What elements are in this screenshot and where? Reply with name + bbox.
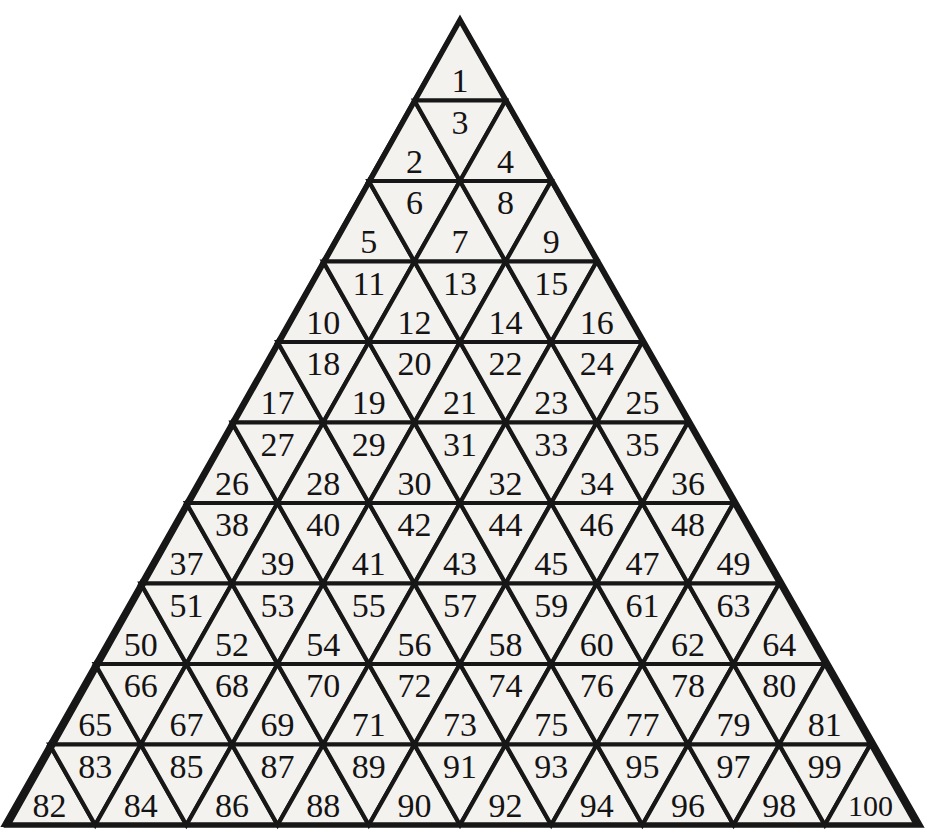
triangle-cell-label-32: 32 bbox=[489, 465, 523, 502]
triangle-cell-label-58: 58 bbox=[489, 626, 523, 663]
triangle-cell-label-88: 88 bbox=[306, 787, 340, 824]
triangle-cell-label-52: 52 bbox=[215, 626, 249, 663]
triangle-cell-label-54: 54 bbox=[306, 626, 340, 663]
triangle-cell-label-63: 63 bbox=[717, 587, 751, 624]
triangle-cell-label-61: 61 bbox=[625, 587, 659, 624]
triangle-cell-label-90: 90 bbox=[397, 787, 431, 824]
triangle-cell-label-69: 69 bbox=[261, 706, 295, 743]
triangle-cell-label-67: 67 bbox=[169, 706, 203, 743]
triangle-cell-label-55: 55 bbox=[352, 587, 386, 624]
triangle-cell-label-5: 5 bbox=[360, 223, 377, 260]
triangle-cell-label-86: 86 bbox=[215, 787, 249, 824]
triangle-cell-label-97: 97 bbox=[717, 748, 751, 785]
triangle-cell-label-78: 78 bbox=[671, 667, 705, 704]
triangle-cell-label-44: 44 bbox=[489, 506, 523, 543]
triangle-cell-label-34: 34 bbox=[580, 465, 614, 502]
triangle-cell-label-66: 66 bbox=[124, 667, 158, 704]
triangle-cell-label-22: 22 bbox=[489, 345, 523, 382]
triangle-cell-label-14: 14 bbox=[489, 304, 523, 341]
triangle-cell-label-20: 20 bbox=[397, 345, 431, 382]
triangle-cell-label-15: 15 bbox=[534, 265, 568, 302]
triangle-cell-label-13: 13 bbox=[443, 265, 477, 302]
triangle-cell-label-65: 65 bbox=[78, 706, 112, 743]
triangle-cell-label-47: 47 bbox=[625, 545, 659, 582]
triangle-cell-label-49: 49 bbox=[717, 545, 751, 582]
triangle-cell-label-39: 39 bbox=[261, 545, 295, 582]
triangle-cell-label-46: 46 bbox=[580, 506, 614, 543]
triangle-cell-label-64: 64 bbox=[762, 626, 796, 663]
triangle-cell-label-74: 74 bbox=[489, 667, 523, 704]
triangle-grid-svg: 1234567891011121314151617181920212223242… bbox=[0, 0, 944, 840]
triangle-cell-label-82: 82 bbox=[33, 787, 67, 824]
triangle-cell-label-30: 30 bbox=[397, 465, 431, 502]
triangle-cell-label-41: 41 bbox=[352, 545, 386, 582]
triangle-cell-label-26: 26 bbox=[215, 465, 249, 502]
triangle-cell-label-48: 48 bbox=[671, 506, 705, 543]
triangle-cell-label-85: 85 bbox=[169, 748, 203, 785]
triangle-cell-label-93: 93 bbox=[534, 748, 568, 785]
triangle-cell-label-10: 10 bbox=[306, 304, 340, 341]
triangle-cell-label-71: 71 bbox=[352, 706, 386, 743]
triangle-cell-label-70: 70 bbox=[306, 667, 340, 704]
triangle-cell-label-35: 35 bbox=[625, 426, 659, 463]
triangle-cell-label-7: 7 bbox=[452, 223, 469, 260]
triangle-cell-label-77: 77 bbox=[625, 706, 659, 743]
triangle-cell-label-24: 24 bbox=[580, 345, 614, 382]
triangle-cell-label-73: 73 bbox=[443, 706, 477, 743]
triangle-cell-label-16: 16 bbox=[580, 304, 614, 341]
triangle-cell-label-84: 84 bbox=[124, 787, 158, 824]
triangle-cell-label-75: 75 bbox=[534, 706, 568, 743]
triangle-cell-label-42: 42 bbox=[397, 506, 431, 543]
triangle-cell-label-56: 56 bbox=[397, 626, 431, 663]
triangle-cell-label-28: 28 bbox=[306, 465, 340, 502]
triangle-cell-label-92: 92 bbox=[489, 787, 523, 824]
triangle-cell-label-80: 80 bbox=[762, 667, 796, 704]
triangle-cell-label-11: 11 bbox=[352, 265, 385, 302]
triangle-cell-label-98: 98 bbox=[762, 787, 796, 824]
triangle-cell-label-50: 50 bbox=[124, 626, 158, 663]
triangle-cell-label-6: 6 bbox=[406, 184, 423, 221]
triangle-cell-label-37: 37 bbox=[169, 545, 203, 582]
triangle-cell-label-87: 87 bbox=[261, 748, 295, 785]
triangle-cell-label-27: 27 bbox=[261, 426, 295, 463]
triangle-cell-label-12: 12 bbox=[397, 304, 431, 341]
triangle-cell-label-36: 36 bbox=[671, 465, 705, 502]
triangle-cell-label-19: 19 bbox=[352, 384, 386, 421]
triangle-cell-label-79: 79 bbox=[717, 706, 751, 743]
triangle-cell-label-100: 100 bbox=[848, 789, 893, 822]
triangle-cell-label-9: 9 bbox=[543, 223, 560, 260]
triangle-cell-label-17: 17 bbox=[261, 384, 295, 421]
triangle-cell-label-4: 4 bbox=[497, 143, 514, 180]
triangle-cell-label-33: 33 bbox=[534, 426, 568, 463]
triangle-cell-label-3: 3 bbox=[452, 104, 469, 141]
triangle-cell-label-72: 72 bbox=[397, 667, 431, 704]
triangle-cell-label-95: 95 bbox=[625, 748, 659, 785]
triangle-cell-label-29: 29 bbox=[352, 426, 386, 463]
triangle-cell-label-62: 62 bbox=[671, 626, 705, 663]
triangle-cell-label-89: 89 bbox=[352, 748, 386, 785]
triangle-cell-label-83: 83 bbox=[78, 748, 112, 785]
triangle-cell-label-45: 45 bbox=[534, 545, 568, 582]
triangle-cell-label-43: 43 bbox=[443, 545, 477, 582]
triangle-cell-label-94: 94 bbox=[580, 787, 614, 824]
triangle-cell-label-18: 18 bbox=[306, 345, 340, 382]
triangle-cell-label-2: 2 bbox=[406, 143, 423, 180]
triangle-cell-label-23: 23 bbox=[534, 384, 568, 421]
triangle-cell-label-51: 51 bbox=[169, 587, 203, 624]
triangle-cell-label-59: 59 bbox=[534, 587, 568, 624]
triangle-cell-label-91: 91 bbox=[443, 748, 477, 785]
triangle-cell-label-8: 8 bbox=[497, 184, 514, 221]
triangle-cell-label-21: 21 bbox=[443, 384, 477, 421]
triangle-cell-label-60: 60 bbox=[580, 626, 614, 663]
triangle-cell-label-57: 57 bbox=[443, 587, 477, 624]
triangle-cell-label-99: 99 bbox=[808, 748, 842, 785]
triangle-cell-label-53: 53 bbox=[261, 587, 295, 624]
triangle-cell-label-31: 31 bbox=[443, 426, 477, 463]
numbered-triangle-figure: 1234567891011121314151617181920212223242… bbox=[0, 0, 944, 840]
triangle-cell-label-1: 1 bbox=[452, 62, 469, 99]
triangle-cell-label-68: 68 bbox=[215, 667, 249, 704]
triangle-cell-label-76: 76 bbox=[580, 667, 614, 704]
triangle-cell-label-81: 81 bbox=[808, 706, 842, 743]
triangle-cell-label-96: 96 bbox=[671, 787, 705, 824]
triangle-cell-label-25: 25 bbox=[625, 384, 659, 421]
